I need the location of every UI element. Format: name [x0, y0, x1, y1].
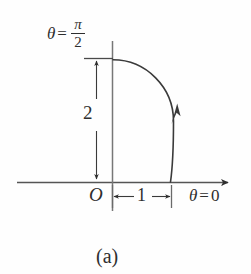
horizontal-dimension-label: 1 — [137, 186, 146, 204]
vertical-axis-label: θ = π 2 — [47, 17, 85, 50]
origin-label: O — [89, 185, 103, 204]
horizontal-axis-label: θ = 0 — [189, 187, 219, 204]
fraction-numerator: π — [72, 17, 84, 33]
theta-symbol: θ — [47, 25, 55, 42]
figure-container: θ = π 2 2 O 1 θ = 0 (a) — [0, 0, 251, 274]
figure-canvas — [0, 0, 251, 274]
polar-curve-path — [113, 60, 174, 182]
vertical-dimension-label: 2 — [83, 103, 93, 122]
equals-sign: = — [199, 187, 209, 204]
theta-zero-value: 0 — [211, 187, 220, 204]
pi-over-two-fraction: π 2 — [71, 17, 85, 50]
figure-caption: (a) — [96, 246, 118, 266]
fraction-denominator: 2 — [72, 34, 84, 50]
polar-curve — [113, 60, 181, 182]
theta-symbol: θ — [189, 187, 197, 204]
equals-sign: = — [57, 25, 67, 42]
